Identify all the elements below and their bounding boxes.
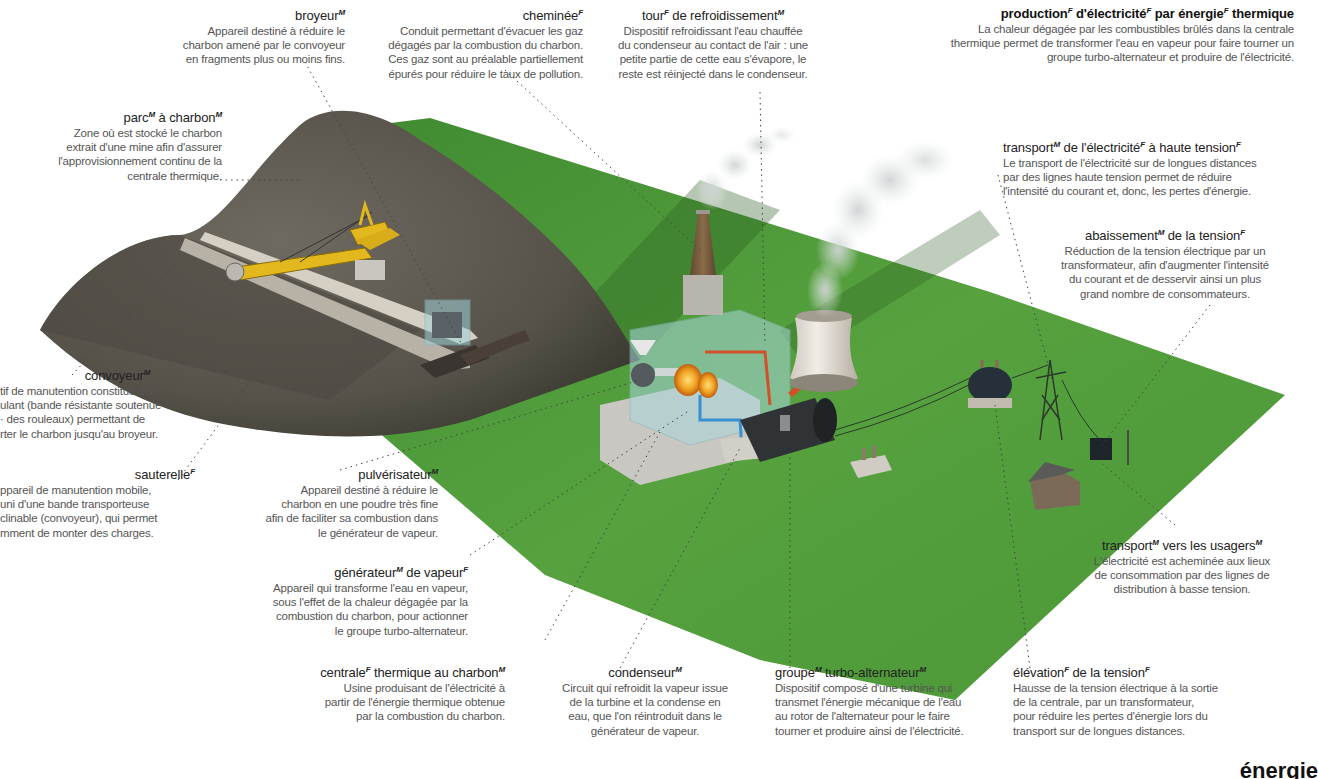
label-term: abaissementM de la tensionF: [1030, 228, 1300, 244]
label-term: parcM à charbonM: [12, 110, 222, 126]
boiler-fire: [674, 364, 702, 396]
label-term: pulvérisateurM: [210, 467, 438, 483]
label-centrale-thermique: centraleF thermique au charbonM Usine pr…: [260, 665, 505, 724]
label-term: transportM vers les usagersM: [1068, 538, 1296, 554]
label-term: tourF de refroidissementM: [588, 8, 838, 24]
label-description: Réduction de la tension électrique par u…: [1030, 244, 1300, 301]
label-groupe-turbo-alternateur: groupeM turbo-alternateurM Dispositif co…: [775, 665, 1015, 738]
label-term: groupeM turbo-alternateurM: [775, 665, 1015, 681]
label-description: La chaleur dégagée par les combustibles …: [824, 22, 1294, 65]
label-term: condenseurM: [540, 665, 750, 681]
label-description: Appareil destiné à réduire le charbon am…: [150, 24, 345, 67]
label-term: centraleF thermique au charbonM: [260, 665, 505, 681]
label-term: sauterelleF: [0, 467, 195, 483]
label-description: Appareil qui transforme l'eau en vapeur,…: [210, 581, 468, 638]
label-production-electricite: productionF d'électricitéF par énergieF …: [824, 6, 1294, 65]
label-description: Dispositif composé d'une turbine qui tra…: [775, 681, 1015, 738]
step-down-transformer: [1090, 438, 1112, 460]
label-description: tif de manutention constitué d'un ulant …: [0, 384, 205, 441]
label-description: L'électricité est acheminée aux lieux de…: [1068, 554, 1296, 597]
label-transport-haute-tension: transportM de l'électricitéF à haute ten…: [1003, 140, 1313, 199]
label-description: ppareil de manutention mobile, uni d'une…: [0, 483, 195, 540]
label-convoyeur: convoyeurM tif de manutention constitué …: [0, 368, 205, 441]
label-parc-charbon: parcM à charbonM Zone où est stocké le c…: [12, 110, 222, 183]
label-sauterelle: sauterelleF ppareil de manutention mobil…: [0, 467, 195, 540]
label-description: Usine produisant de l'électricité à part…: [260, 681, 505, 724]
label-term: cheminéeF: [345, 8, 583, 24]
label-term: broyeurM: [150, 8, 345, 24]
label-description: Hausse de la tension électrique à la sor…: [1013, 681, 1263, 738]
label-transport-usagers: transportM vers les usagersM L'électrici…: [1068, 538, 1296, 597]
label-abaissement-tension: abaissementM de la tensionF Réduction de…: [1030, 228, 1300, 301]
label-generateur-vapeur: générateurM de vapeurF Appareil qui tran…: [210, 565, 468, 638]
cropped-section-heading: énergie: [1240, 758, 1318, 779]
label-term: convoyeurM: [0, 368, 205, 384]
label-condenseur: condenseurM Circuit qui refroidit la vap…: [540, 665, 750, 738]
label-description: Circuit qui refroidit la vapeur issue de…: [540, 681, 750, 738]
label-description: Conduit permettant d'évacuer les gaz dég…: [345, 24, 583, 81]
label-description: Le transport de l'électricité sur de lon…: [1003, 156, 1313, 199]
label-term: transportM de l'électricitéF à haute ten…: [1003, 140, 1313, 156]
label-pulverisateur: pulvérisateurM Appareil destiné à réduir…: [210, 467, 438, 540]
label-term: productionF d'électricitéF par énergieF …: [824, 6, 1294, 22]
label-tour-refroidissement: tourF de refroidissementM Dispositif ref…: [588, 8, 838, 81]
label-description: Appareil destiné à réduire le charbon en…: [210, 483, 438, 540]
crusher: [425, 300, 470, 345]
label-elevation-tension: élévationF de la tensionF Hausse de la t…: [1013, 665, 1263, 738]
label-description: Dispositif refroidissant l'eau chauffée …: [588, 24, 838, 81]
label-cheminee: cheminéeF Conduit permettant d'évacuer l…: [345, 8, 583, 81]
label-term: générateurM de vapeurF: [210, 565, 468, 581]
label-term: élévationF de la tensionF: [1013, 665, 1263, 681]
label-broyeur: broyeurM Appareil destiné à réduire le c…: [150, 8, 345, 67]
label-description: Zone où est stocké le charbon extrait d'…: [12, 126, 222, 183]
